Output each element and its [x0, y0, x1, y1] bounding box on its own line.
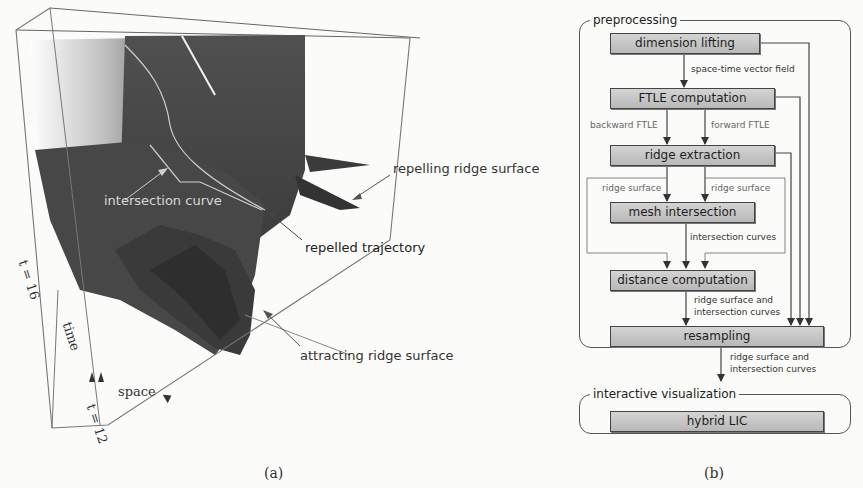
label-attracting-ridge-surface: attracting ridge surface: [300, 348, 454, 363]
panel-b-pipeline-diagram: preprocessing interactive visualization: [560, 0, 863, 488]
edge-label-backward-ftle: backward FTLE: [590, 120, 658, 131]
node-ridge-extraction: ridge extraction: [610, 145, 775, 166]
label-intersection-curve: intersection curve: [104, 193, 222, 208]
node-ftle-computation: FTLE computation: [610, 88, 775, 109]
ridge-surface-rendering: [0, 0, 560, 488]
edge-label-intersection-curves: intersection curves: [690, 232, 776, 243]
node-dimension-lifting: dimension lifting: [610, 33, 760, 54]
caption-a: (a): [264, 465, 283, 481]
node-mesh-intersection: mesh intersection: [610, 202, 755, 223]
label-space-axis: space: [118, 384, 156, 399]
edge-label-ridge-surface-left: ridge surface: [602, 183, 661, 194]
label-repelled-trajectory: repelled trajectory: [305, 240, 425, 255]
label-repelling-ridge-surface: repelling ridge surface: [393, 161, 539, 176]
edge-label-forward-ftle: forward FTLE: [711, 120, 770, 131]
edge-label-ridge-surface-right: ridge surface: [711, 183, 770, 194]
edge-label-ridge-surface-and-1: ridge surface and: [694, 295, 773, 306]
caption-b: (b): [704, 465, 724, 481]
node-distance-computation: distance computation: [610, 270, 755, 291]
edge-label-ridge-surface-and-2: ridge surface and: [730, 352, 809, 363]
edge-label-space-time-vector-field: space-time vector field: [691, 64, 795, 75]
panel-a-ridge-rendering: intersection curve repelling ridge surfa…: [0, 0, 560, 488]
edge-label-intersection-curves-1: intersection curves: [694, 307, 780, 318]
node-resampling: resampling: [610, 326, 824, 347]
node-hybrid-lic: hybrid LIC: [610, 411, 824, 432]
edge-label-intersection-curves-2: intersection curves: [730, 364, 816, 375]
